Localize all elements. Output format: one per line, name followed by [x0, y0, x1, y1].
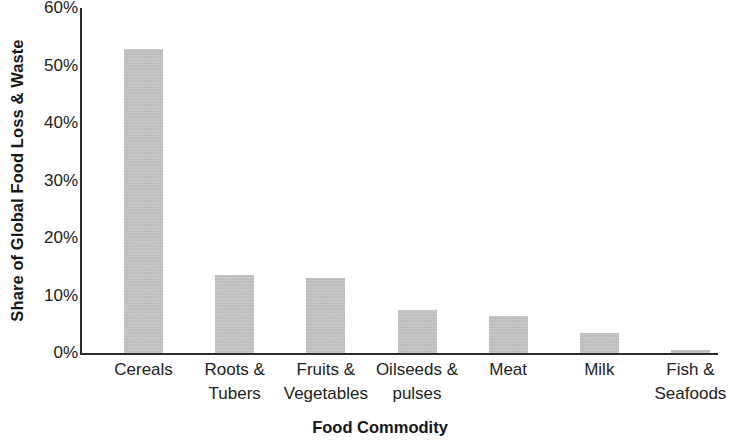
x-axis-tick-label-line2: Vegetables: [274, 382, 378, 406]
y-axis-tick-label: 50%: [30, 57, 78, 74]
x-axis-tick-label-line1: Meat: [489, 360, 527, 379]
y-axis-tick-label: 20%: [30, 229, 78, 246]
bar: [398, 310, 437, 353]
plot-area: [80, 8, 718, 355]
x-axis-tick-label-line2: Tubers: [183, 382, 287, 406]
x-axis-tick-label-line1: Milk: [584, 360, 614, 379]
x-axis-tick-label: Fish &Seafoods: [638, 358, 731, 406]
x-axis-tick-labels: CerealsRoots &TubersFruits &VegetablesOi…: [80, 358, 718, 416]
bar: [124, 49, 163, 353]
y-axis-tick-labels: 60%50%40%30%20%10%0%: [28, 0, 78, 360]
x-axis-line: [80, 353, 718, 355]
bar: [489, 316, 528, 353]
y-axis-tick-label: 10%: [30, 287, 78, 304]
y-axis-tick-label: 60%: [30, 0, 78, 16]
bar: [215, 275, 254, 353]
x-axis-tick-label: Fruits &Vegetables: [274, 358, 378, 406]
x-axis-title: Food Commodity: [80, 418, 680, 437]
x-axis-tick-label: Milk: [547, 358, 651, 382]
x-axis-tick-label-line1: Oilseeds &: [376, 360, 458, 379]
y-axis-line: [80, 8, 82, 355]
x-axis-tick-label-line1: Fish &: [666, 360, 714, 379]
x-axis-tick-label: Meat: [456, 358, 560, 382]
bar: [306, 278, 345, 353]
x-axis-tick-label: Cereals: [92, 358, 196, 382]
bar: [671, 350, 710, 353]
x-axis-tick-label-line2: Seafoods: [638, 382, 731, 406]
bar: [580, 333, 619, 353]
x-axis-tick-label: Oilseeds &pulses: [365, 358, 469, 406]
y-axis-tick-label: 30%: [30, 172, 78, 189]
y-axis-tick-label: 0%: [30, 344, 78, 361]
y-axis-tick-label: 40%: [30, 114, 78, 131]
x-axis-tick-label-line1: Cereals: [114, 360, 173, 379]
x-axis-tick-label-line2: pulses: [365, 382, 469, 406]
x-axis-tick-label-line1: Roots &: [204, 360, 264, 379]
y-axis-title-text: Share of Global Food Loss & Waste: [8, 39, 27, 321]
x-axis-tick-label: Roots &Tubers: [183, 358, 287, 406]
x-axis-tick-label-line1: Fruits &: [297, 360, 356, 379]
